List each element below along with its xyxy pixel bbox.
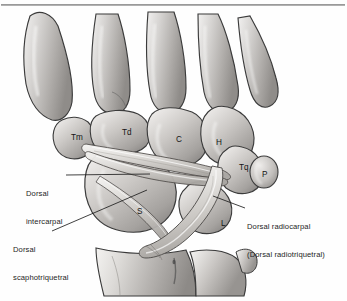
callout-line: Dorsal radiocarpal	[247, 222, 325, 231]
callout-dorsal-scaphotriquetral: Dorsal scaphotriquetral	[13, 227, 69, 301]
callout-line: scaphotriquetral	[13, 273, 69, 282]
callout-line: Dorsal	[26, 189, 63, 198]
callout-line: (Dorsal radiotriquetral)	[247, 250, 325, 259]
bone-label-scaphoid: S	[137, 207, 142, 216]
anatomical-figure: Tm Td C H Tq P S L Dorsal intercarpal Do…	[0, 0, 347, 301]
callout-dorsal-radiocarpal: Dorsal radiocarpal (Dorsal radiotriquetr…	[247, 204, 325, 278]
fourth-metacarpal	[198, 14, 238, 112]
callout-line: Dorsal	[13, 245, 69, 254]
bone-label-capitate: C	[176, 135, 182, 144]
forearm-bones	[96, 248, 257, 296]
fifth-metacarpal	[238, 16, 278, 107]
first-metacarpal	[24, 12, 72, 120]
callout-line: intercarpal	[26, 217, 63, 226]
bone-label-trapezoid: Td	[122, 128, 132, 137]
bone-label-triquetrum: Tq	[239, 163, 249, 172]
second-metacarpal	[92, 14, 130, 114]
bone-label-lunate: L	[221, 219, 226, 228]
bone-label-hamate: H	[216, 138, 222, 147]
bone-label-trapezium: Tm	[71, 133, 83, 142]
third-metacarpal	[147, 12, 186, 113]
bone-label-pisiform: P	[262, 170, 267, 179]
